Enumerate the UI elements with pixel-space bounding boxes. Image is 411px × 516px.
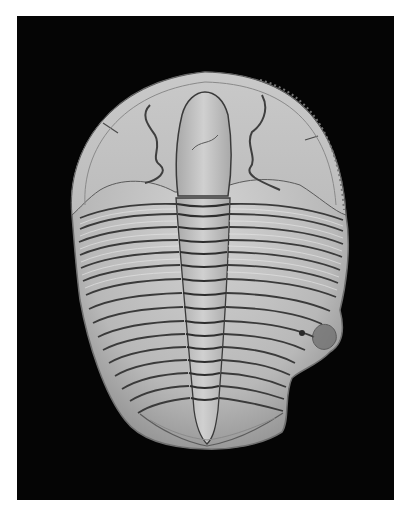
glabella — [176, 92, 231, 196]
trilobite-photo — [17, 16, 394, 500]
broken-margin — [313, 324, 337, 349]
photograph-frame — [17, 16, 394, 500]
margin-pit — [299, 330, 305, 336]
